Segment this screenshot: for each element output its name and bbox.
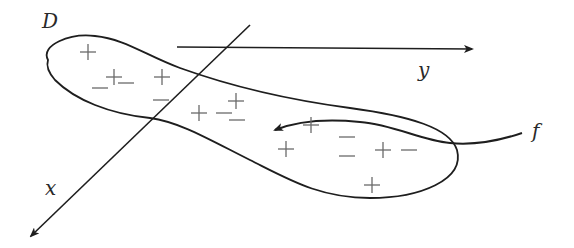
x-axis-label: x (45, 178, 56, 198)
plus-sign (278, 141, 294, 157)
plus-sign (154, 69, 170, 85)
plus-sign (375, 142, 391, 158)
plus-sign (191, 105, 207, 121)
f-label: f (532, 121, 539, 141)
region-d-outline (47, 36, 458, 198)
region-d-label: D (42, 11, 58, 31)
x-axis-arrow (31, 25, 250, 236)
charge-signs (80, 44, 417, 193)
y-axis-label: y (418, 60, 429, 80)
diagram-svg (0, 0, 574, 248)
plus-sign (303, 117, 319, 133)
y-axis-arrow (177, 47, 472, 49)
diagram-canvas: D y x f (0, 0, 574, 248)
plus-sign (364, 177, 380, 193)
f-mapping-curve (275, 121, 522, 144)
plus-sign (228, 93, 244, 109)
plus-sign (80, 44, 96, 60)
